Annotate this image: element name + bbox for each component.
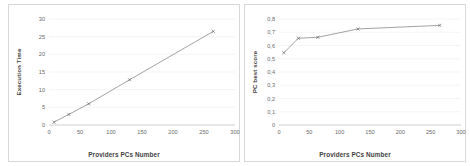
x-axis-tick-label: 300 [230,129,239,135]
data-series-line [54,31,213,122]
data-point-marker [52,121,55,124]
x-axis-label-left: Providers PCs Number [9,151,239,158]
data-point-marker [67,113,70,116]
chart-panel-pc-best-score: PC best score 00,10,20,30,40,50,60,70,8 … [244,4,466,162]
data-point-marker [282,51,285,54]
data-point-marker [128,78,131,81]
x-axis-tick-label: 0 [277,129,280,135]
plot-area-left: Execution Time 051015202530 050100150200… [9,5,239,161]
x-axis-ticks-left: 050100150200250300 [9,129,241,139]
x-axis-tick-label: 300 [456,129,465,135]
data-point-marker [212,30,215,33]
data-series-line [284,25,440,52]
x-axis-label-right: Providers PCs Number [245,151,465,158]
x-axis-tick-label: 100 [106,129,115,135]
x-axis-tick-label: 150 [365,129,374,135]
plot-area-right: PC best score 00,10,20,30,40,50,60,70,8 … [245,5,465,161]
chart-panel-execution-time: Execution Time 051015202530 050100150200… [8,4,240,162]
x-axis-tick-label: 50 [77,129,83,135]
chart-svg-left [9,5,241,163]
x-axis-tick-label: 200 [168,129,177,135]
chart-svg-right [245,5,467,163]
x-axis-tick-label: 200 [396,129,405,135]
x-axis-tick-label: 250 [426,129,435,135]
x-axis-tick-label: 50 [306,129,312,135]
data-point-marker [87,102,90,105]
x-axis-tick-label: 0 [47,129,50,135]
x-axis-tick-label: 250 [199,129,208,135]
x-axis-tick-label: 100 [335,129,344,135]
x-axis-ticks-right: 050100150200250300 [245,129,467,139]
x-axis-tick-label: 150 [137,129,146,135]
figure-container: Execution Time 051015202530 050100150200… [0,0,470,166]
